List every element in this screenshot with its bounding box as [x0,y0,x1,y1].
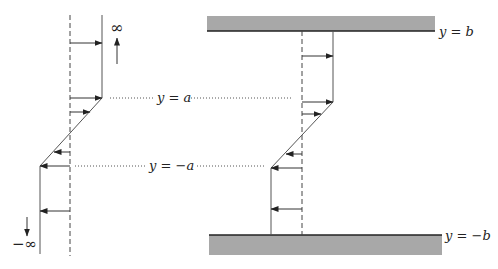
bottom-wall-label: y = −b [444,228,491,243]
top-wall-label: y = b [438,24,474,39]
left-profile-diagonal [40,98,102,166]
positive-infinity-label: ∞ [110,18,123,37]
lower-level-label: y = −a [148,158,194,173]
right-panel: y = b y = −b [207,16,491,255]
top-wall [207,16,435,31]
left-panel: ∞ −∞ [12,15,123,256]
upper-level-label: y = a [156,90,191,105]
shear-profile-diagram: ∞ −∞ y = a y = −a y = b y = −b [0,0,498,269]
bottom-wall [209,235,442,255]
level-guides: y = a y = −a [75,90,292,173]
negative-infinity-label: −∞ [12,235,37,253]
